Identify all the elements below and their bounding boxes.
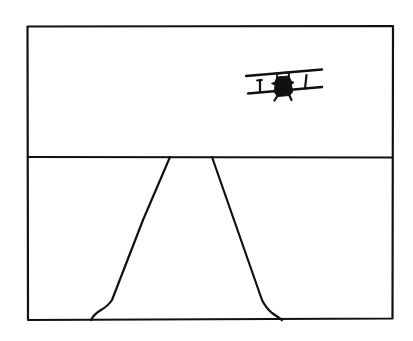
picture-frame [28, 26, 394, 320]
biplane-icon [246, 70, 322, 101]
line-drawing [0, 0, 413, 341]
biplane-left-gear [275, 95, 279, 101]
road-left-edge [91, 157, 170, 320]
biplane-fuselage [272, 76, 295, 97]
road-right-edge [212, 157, 282, 320]
illustration-canvas: Line drawing of a biplane flying over a … [0, 0, 413, 341]
biplane-right-strut [305, 75, 307, 89]
horizon-line [28, 157, 393, 158]
biplane-left-strut-cap [257, 80, 262, 81]
biplane-right-gear [289, 95, 292, 101]
